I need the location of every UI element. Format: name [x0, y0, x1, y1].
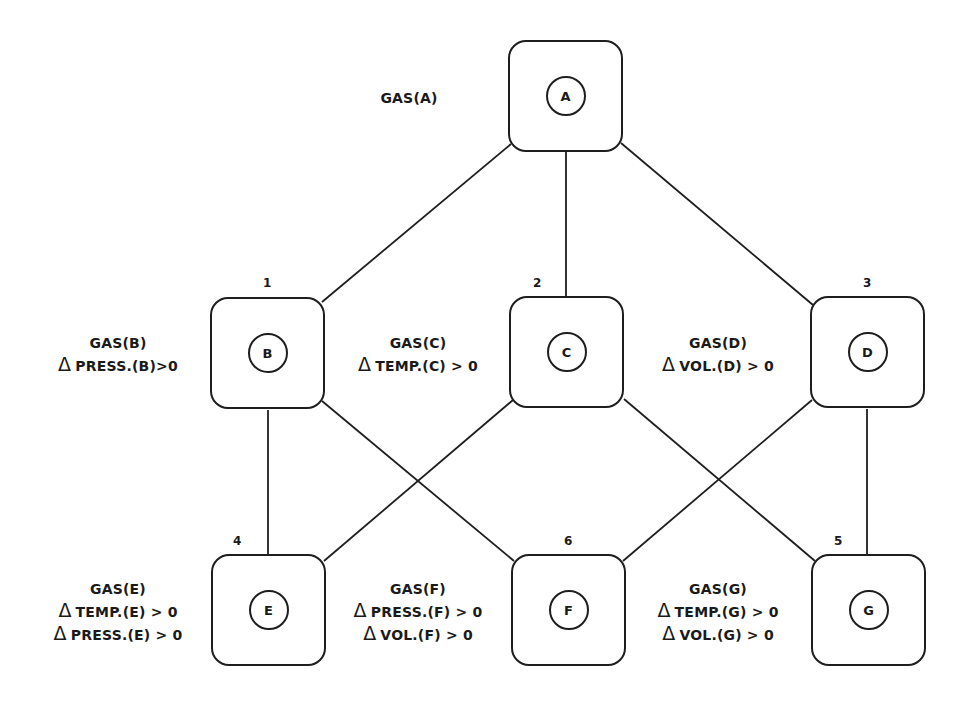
node-b-box: B	[210, 297, 325, 409]
node-a-circle: A	[546, 76, 586, 116]
node-c-conditions: GAS(C) ΔTEMP.(C) > 0	[358, 333, 478, 377]
node-g-label: G	[863, 603, 874, 618]
node-c-condition-1: TEMP.(C) > 0	[375, 358, 478, 374]
edge-a-d	[621, 143, 813, 305]
node-g-gas: GAS(G)	[657, 579, 778, 600]
delta-icon: Δ	[58, 353, 71, 375]
node-a-box: A	[508, 40, 623, 152]
node-g-box: G	[811, 554, 926, 666]
node-d-number: 3	[863, 276, 871, 290]
edge-d-f	[623, 400, 812, 561]
node-e-conditions: GAS(E) ΔTEMP.(E) > 0 ΔPRESS.(E) > 0	[54, 579, 183, 646]
node-c-box: C	[509, 296, 624, 408]
node-g-condition-2: VOL.(G) > 0	[679, 627, 773, 643]
delta-icon: Δ	[354, 599, 367, 621]
delta-icon: Δ	[54, 622, 67, 644]
node-e-box: E	[211, 554, 326, 666]
node-d-label: D	[862, 345, 873, 360]
node-d-conditions: GAS(D) ΔVOL.(D) > 0	[662, 333, 774, 377]
node-a-conditions: GAS(A)	[380, 88, 437, 109]
node-d-gas: GAS(D)	[662, 333, 774, 354]
node-d-condition-1: VOL.(D) > 0	[679, 358, 774, 374]
node-g-number: 5	[834, 534, 842, 548]
node-b-number: 1	[263, 276, 271, 290]
delta-icon: Δ	[363, 622, 376, 644]
node-g-circle: G	[849, 590, 889, 630]
node-g-condition-1: TEMP.(G) > 0	[675, 604, 779, 620]
node-c-gas: GAS(C)	[358, 333, 478, 354]
node-e-gas: GAS(E)	[54, 579, 183, 600]
edge-a-b	[322, 144, 511, 302]
node-e-condition-1: TEMP.(E) > 0	[76, 604, 178, 620]
node-f-condition-1: PRESS.(F) > 0	[371, 604, 483, 620]
node-f-gas: GAS(F)	[354, 579, 483, 600]
node-a-gas: GAS(A)	[380, 88, 437, 109]
node-b-conditions: GAS(B) ΔPRESS.(B)>0	[58, 333, 178, 377]
node-f-circle: F	[549, 590, 589, 630]
node-f-number: 6	[564, 534, 572, 548]
node-e-condition-2: PRESS.(E) > 0	[71, 627, 183, 643]
delta-icon: Δ	[662, 353, 675, 375]
delta-icon: Δ	[358, 353, 371, 375]
node-b-circle: B	[248, 333, 288, 373]
node-b-condition-1: PRESS.(B)>0	[75, 358, 178, 374]
node-e-circle: E	[249, 590, 289, 630]
node-f-box: F	[511, 554, 626, 666]
node-e-label: E	[264, 603, 273, 618]
node-f-condition-2: VOL.(F) > 0	[380, 627, 473, 643]
node-f-conditions: GAS(F) ΔPRESS.(F) > 0 ΔVOL.(F) > 0	[354, 579, 483, 646]
node-b-label: B	[263, 346, 273, 361]
node-d-circle: D	[848, 332, 888, 372]
node-c-circle: C	[547, 332, 587, 372]
delta-icon: Δ	[657, 599, 670, 621]
delta-icon: Δ	[58, 599, 71, 621]
node-f-label: F	[564, 603, 573, 618]
node-e-number: 4	[233, 534, 241, 548]
node-c-number: 2	[533, 276, 541, 290]
node-g-conditions: GAS(G) ΔTEMP.(G) > 0 ΔVOL.(G) > 0	[657, 579, 778, 646]
node-b-gas: GAS(B)	[58, 333, 178, 354]
gas-lattice-diagram: A GAS(A) 1 B GAS(B) ΔPRESS.(B)>0 2 C GAS…	[0, 0, 975, 701]
node-c-label: C	[562, 345, 572, 360]
delta-icon: Δ	[662, 622, 675, 644]
node-a-label: A	[560, 89, 570, 104]
node-d-box: D	[810, 296, 925, 408]
